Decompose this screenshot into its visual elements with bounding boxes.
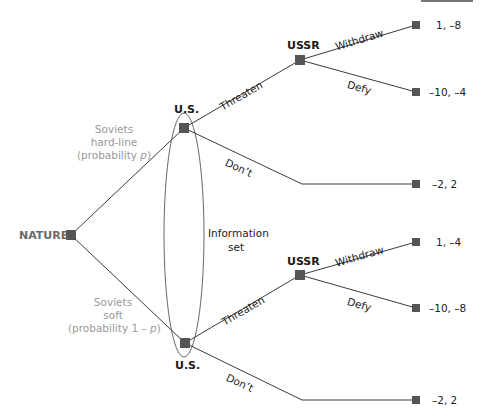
hardline-prob-suffix: ) — [147, 149, 151, 161]
soft-line3: (probability 1 – p) — [68, 322, 158, 335]
soft-prob-prefix: (probability 1 – — [68, 322, 150, 334]
terminal-node — [412, 396, 420, 404]
game-tree-lines — [0, 0, 484, 420]
info-set-line2: set — [208, 240, 264, 254]
information-set-ellipse — [164, 113, 204, 357]
us-top-node — [179, 123, 189, 133]
payoff-soft-threaten-withdraw: 1, –4 — [436, 237, 461, 248]
game-tree-diagram: NATURE U.S. U.S. USSR USSR Soviets hard-… — [0, 0, 484, 420]
payoff-hard-threaten-defy: –10, –4 — [429, 87, 466, 98]
terminal-node — [412, 304, 420, 312]
soft-prob-var: p — [150, 322, 157, 334]
terminal-node — [412, 180, 420, 188]
hardline-prob-prefix: (probability — [77, 149, 140, 161]
soft-probability-label: Soviets soft (probability 1 – p) — [68, 296, 158, 335]
ussr-bottom-label: USSR — [287, 256, 320, 267]
info-set-line1: Information — [208, 226, 264, 240]
information-set-label: Information set — [208, 226, 264, 254]
soft-line2: soft — [68, 309, 158, 322]
terminal-node — [412, 21, 420, 29]
payoff-soft-dont: –2, 2 — [432, 395, 457, 406]
us-top-label: U.S. — [174, 104, 199, 115]
hardline-line3: (probability p) — [74, 149, 154, 162]
ussr-top-node — [295, 55, 305, 65]
us-bottom-label: U.S. — [175, 360, 200, 371]
payoff-soft-threaten-defy: –10, –8 — [429, 303, 466, 314]
terminal-node — [412, 238, 420, 246]
hardline-line2: hard-line — [74, 136, 154, 149]
soft-line1: Soviets — [68, 296, 158, 309]
us-bottom-node — [180, 338, 190, 348]
hardline-probability-label: Soviets hard-line (probability p) — [74, 123, 154, 162]
hardline-line1: Soviets — [74, 123, 154, 136]
soft-prob-suffix: ) — [157, 322, 161, 334]
nature-label: NATURE — [19, 230, 68, 241]
ussr-top-label: USSR — [287, 40, 320, 51]
terminal-node — [412, 88, 420, 96]
edge-us-top-dont — [184, 128, 416, 184]
payoff-hard-threaten-withdraw: 1, –8 — [436, 20, 461, 31]
edge-us-bottom-dont — [185, 343, 416, 400]
payoff-hard-dont: –2, 2 — [432, 179, 457, 190]
hardline-prob-var: p — [140, 149, 147, 161]
ussr-bottom-node — [295, 270, 305, 280]
